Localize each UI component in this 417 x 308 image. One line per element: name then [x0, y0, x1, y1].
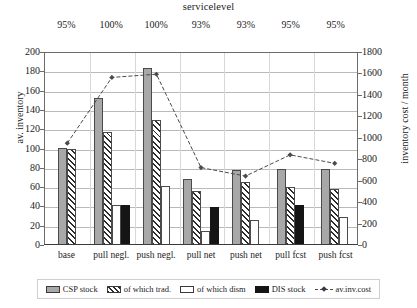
legend-item: av.inv.cost [315, 284, 372, 294]
line-marker [154, 72, 159, 77]
y-axis-left-tick-label: 20 [4, 220, 40, 232]
y-axis-right-tick-label: 1800 [362, 46, 402, 58]
y-axis-right-tickmark [358, 224, 362, 225]
y-axis-right-title: inventory cost / month [399, 44, 410, 194]
y-axis-right-tick-label: 400 [362, 196, 402, 208]
legend-item: of which dism [180, 284, 246, 294]
y-axis-right-tick-label: 0 [362, 239, 402, 251]
y-axis-left-title: av. inventory [14, 48, 25, 188]
y-axis-right-tickmark [358, 202, 362, 203]
legend-label: av.inv.cost [336, 284, 372, 294]
y-axis-right-tickmark [358, 159, 362, 160]
legend-item: DIS stock [255, 284, 306, 294]
dism-swatch-icon [180, 286, 194, 293]
servicelevel-value: 95% [268, 18, 313, 32]
y-axis-right-tick-label: 1200 [362, 110, 402, 122]
legend-label: of which dism [197, 284, 246, 294]
x-axis-category-label: push fcst [313, 248, 358, 263]
y-axis-right-tick-label: 200 [362, 218, 402, 230]
y-axis-right-tickmark [358, 138, 362, 139]
y-axis-right-tick-label: 1600 [362, 67, 402, 79]
y-axis-right-tickmark [358, 95, 362, 96]
x-axis-category-label: pull fcst [268, 248, 313, 263]
y-axis-right-tickmark [358, 73, 362, 74]
y-axis-left-tickmark [40, 206, 44, 207]
y-axis-right-tickmark [358, 52, 362, 53]
y-axis-right-tickmark [358, 116, 362, 117]
x-axis-category-label: pull negl. [89, 248, 134, 263]
y-axis-right-tickmark [358, 181, 362, 182]
y-axis-right-tickmark [358, 245, 362, 246]
y-axis-left-tick-label: 0 [4, 239, 40, 251]
servicelevel-value: 100% [134, 18, 179, 32]
legend-item: CSP stock [46, 284, 98, 294]
line-path [67, 74, 334, 176]
y-axis-left-tickmark [40, 245, 44, 246]
y-axis-left-tick-label: 40 [4, 200, 40, 212]
servicelevel-label-row: 95%100%100%93%93%95%95% [44, 18, 358, 32]
legend-label: DIS stock [272, 284, 306, 294]
x-axis-category-labels: basepull negl.push negl.pull netpush net… [44, 248, 358, 263]
csp-swatch-icon [46, 286, 60, 293]
y-axis-left-tickmark [40, 129, 44, 130]
chart-title: servicelevel [0, 1, 417, 12]
line-marker [332, 161, 337, 166]
line-swatch-icon [315, 286, 333, 293]
y-axis-left-tickmark [40, 52, 44, 53]
legend-label: of which trad. [124, 284, 171, 294]
y-axis-left-tickmark [40, 71, 44, 72]
y-axis-right-tick-label: 600 [362, 175, 402, 187]
x-axis-category-label: push net [223, 248, 268, 263]
line-marker [243, 174, 248, 179]
chart-container: servicelevel 95%100%100%93%93%95%95% 020… [0, 0, 417, 308]
line-marker [109, 75, 114, 80]
servicelevel-value: 93% [179, 18, 224, 32]
y-axis-left-tickmark [40, 187, 44, 188]
plot-area [44, 52, 358, 245]
x-axis-category-label: base [44, 248, 89, 263]
legend-item: of which trad. [107, 284, 171, 294]
servicelevel-value: 95% [44, 18, 89, 32]
y-axis-right-tick-label: 800 [362, 153, 402, 165]
servicelevel-value: 100% [89, 18, 134, 32]
x-axis-category-label: push negl. [134, 248, 179, 263]
line-marker [198, 165, 203, 170]
line-marker [288, 152, 293, 157]
y-axis-left-tickmark [40, 110, 44, 111]
y-axis-left-tickmark [40, 149, 44, 150]
chart-legend: CSP stockof which trad.of which dismDIS … [37, 279, 380, 299]
legend-label: CSP stock [63, 284, 98, 294]
servicelevel-value: 95% [313, 18, 358, 32]
y-axis-left-tickmark [40, 168, 44, 169]
trad-swatch-icon [107, 286, 121, 293]
dis-swatch-icon [255, 286, 269, 293]
line-series-av-inv-cost [45, 53, 357, 244]
y-axis-right-tick-label: 1400 [362, 89, 402, 101]
y-axis-right-labels: 020040060080010001200140016001800 [362, 52, 402, 245]
y-axis-right-tick-label: 1000 [362, 132, 402, 144]
servicelevel-value: 93% [223, 18, 268, 32]
y-axis-left-tickmark [40, 91, 44, 92]
y-axis-left-tickmark [40, 226, 44, 227]
x-axis-category-label: pull net [179, 248, 224, 263]
